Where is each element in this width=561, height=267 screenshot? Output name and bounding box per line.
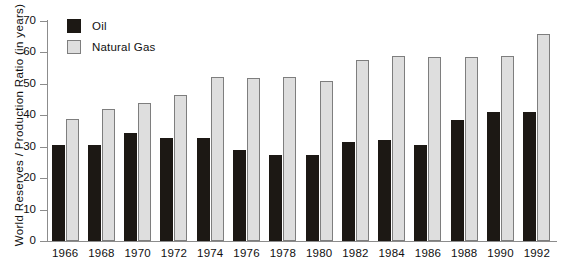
bar-natural-gas [102,109,115,241]
y-tick-label: 30 [14,141,36,152]
legend-item-oil: Oil [67,15,217,36]
bar-oil [160,138,173,241]
bar-group [410,21,446,241]
y-tick-label-wrap: 30 [10,141,36,152]
bar-oil [269,155,282,241]
x-tick-label: 1990 [482,247,518,259]
x-tick-label: 1988 [446,247,482,259]
filled-dark-square-icon [67,19,81,33]
y-tick-label-wrap: 0 [10,235,36,246]
bar-group [446,21,482,241]
bar-group [374,21,410,241]
y-tick-label: 70 [14,15,36,26]
filled-light-square-icon [67,40,81,54]
bar-oil [342,142,355,241]
bar-oil [414,145,427,241]
bar-oil [523,112,536,241]
x-tick-label: 1970 [120,247,156,259]
y-tick-label: 40 [14,109,36,120]
x-tick-label: 1976 [228,247,264,259]
bar-group [482,21,518,241]
bar-group [265,21,301,241]
y-tick-mark [40,115,47,116]
x-tick-label: 1982 [337,247,373,259]
chart-legend: Oil Natural Gas [67,15,217,57]
bar-oil [197,138,210,241]
y-tick-label-wrap: 50 [10,78,36,89]
bar-natural-gas [211,77,224,241]
bar-natural-gas [465,57,478,241]
y-tick-mark [40,178,47,179]
bar-oil [451,120,464,241]
x-tick-label: 1992 [519,247,555,259]
y-tick-label: 0 [14,235,36,246]
y-tick-label-wrap: 40 [10,109,36,120]
bar-natural-gas [247,78,260,241]
y-tick-mark [40,147,47,148]
bar-natural-gas [66,119,79,241]
legend-label-oil: Oil [92,20,107,32]
x-tick-label: 1972 [156,247,192,259]
x-tick-label: 1966 [47,247,83,259]
y-tick-label-wrap: 70 [10,15,36,26]
y-tick-label: 10 [14,204,36,215]
y-tick-label: 20 [14,172,36,183]
bar-natural-gas [174,95,187,241]
bar-natural-gas [428,57,441,241]
bar-oil [378,140,391,241]
x-tick-label: 1984 [374,247,410,259]
y-tick-label-wrap: 60 [10,46,36,57]
bar-oil [233,150,246,241]
bar-group [228,21,264,241]
x-tick-label: 1978 [265,247,301,259]
bar-oil [487,112,500,241]
y-tick-label: 60 [14,46,36,57]
x-tick-label: 1986 [410,247,446,259]
x-tick-label: 1968 [83,247,119,259]
bar-group [337,21,373,241]
bar-group [519,21,555,241]
y-tick-mark [40,52,47,53]
legend-label-natural-gas: Natural Gas [92,41,156,53]
legend-item-natural-gas: Natural Gas [67,36,217,57]
bar-natural-gas [138,103,151,241]
bar-natural-gas [501,56,514,241]
bar-oil [52,145,65,241]
bar-natural-gas [320,81,333,241]
bar-oil [124,133,137,241]
y-tick-label-wrap: 10 [10,204,36,215]
y-tick-mark [40,210,47,211]
bar-oil [88,145,101,241]
y-tick-mark [40,21,47,22]
bar-natural-gas [283,77,296,241]
x-axis-line [40,241,557,242]
bar-natural-gas [392,56,405,241]
x-tick-label: 1974 [192,247,228,259]
bar-oil [306,155,319,241]
bar-natural-gas [356,60,369,241]
x-tick-label: 1980 [301,247,337,259]
y-tick-label-wrap: 20 [10,172,36,183]
y-tick-label: 50 [14,78,36,89]
y-tick-mark [40,241,47,242]
bar-group [301,21,337,241]
bar-chart: World Reserves / Production Ratio (in ye… [0,0,561,267]
bar-natural-gas [537,34,550,241]
y-tick-mark [40,84,47,85]
